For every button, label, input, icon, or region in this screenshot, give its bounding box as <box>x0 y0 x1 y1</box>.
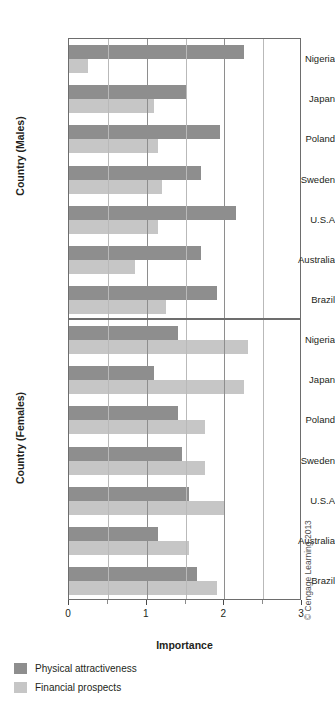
chart-panel-females <box>68 319 301 600</box>
gridline <box>224 39 225 318</box>
y-axis-category-label: Sweden <box>273 174 335 185</box>
gridline <box>108 320 109 599</box>
x-axis-title: Importance <box>68 639 301 651</box>
bar-physical-attractiveness <box>69 447 182 461</box>
bar-physical-attractiveness <box>69 85 186 99</box>
bar-physical-attractiveness <box>69 206 236 220</box>
bar-physical-attractiveness <box>69 286 217 300</box>
bars-area-females <box>69 320 300 599</box>
legend-item-physical-attractiveness: Physical attractiveness <box>14 663 137 674</box>
bar-group <box>69 366 300 394</box>
bar-physical-attractiveness <box>69 125 220 139</box>
bar-financial-prospects <box>69 220 158 234</box>
chart-panel-males <box>68 38 301 319</box>
bar-group <box>69 45 300 73</box>
x-axis-minor-tick <box>262 600 263 604</box>
y-axis-title-females: Country (Females) <box>14 378 26 498</box>
bar-financial-prospects <box>69 99 154 113</box>
y-axis-category-label: Sweden <box>273 455 335 466</box>
legend-label-prospects: Financial prospects <box>35 682 121 693</box>
gridline <box>263 320 264 599</box>
x-axis-tick <box>146 600 147 605</box>
bars-area-males <box>69 39 300 318</box>
bar-physical-attractiveness <box>69 527 158 541</box>
bar-physical-attractiveness <box>69 45 244 59</box>
gridline <box>224 320 225 599</box>
bar-financial-prospects <box>69 380 244 394</box>
x-axis-tick-label: 1 <box>143 608 149 619</box>
bar-physical-attractiveness <box>69 246 201 260</box>
y-axis-category-label: Australia <box>273 254 335 265</box>
y-axis-category-label: Brazil <box>273 294 335 305</box>
bar-group <box>69 447 300 475</box>
y-axis-category-label: Nigeria <box>273 334 335 345</box>
bar-financial-prospects <box>69 260 135 274</box>
gridline <box>147 320 148 599</box>
bar-group <box>69 85 300 113</box>
copyright-credit: © Cengage Learning 2013 <box>303 490 313 620</box>
bar-physical-attractiveness <box>69 166 201 180</box>
bar-financial-prospects <box>69 59 88 73</box>
x-axis-minor-tick <box>107 600 108 604</box>
bar-group <box>69 567 300 595</box>
bar-physical-attractiveness <box>69 366 154 380</box>
bar-group <box>69 326 300 354</box>
y-axis-category-label: Japan <box>273 93 335 104</box>
x-axis-tick-label: 2 <box>221 608 227 619</box>
legend-swatch-icon-attractiveness <box>14 663 27 674</box>
bar-physical-attractiveness <box>69 406 178 420</box>
gridline <box>147 39 148 318</box>
gridline <box>186 39 187 318</box>
y-axis-category-label: Poland <box>273 133 335 144</box>
bar-financial-prospects <box>69 340 248 354</box>
bar-group <box>69 246 300 274</box>
bar-financial-prospects <box>69 541 189 555</box>
bar-physical-attractiveness <box>69 487 189 501</box>
bar-financial-prospects <box>69 139 158 153</box>
y-axis-category-label: Nigeria <box>273 53 335 64</box>
y-axis-title-males: Country (Males) <box>14 96 26 216</box>
bar-financial-prospects <box>69 180 162 194</box>
bar-financial-prospects <box>69 300 166 314</box>
x-axis-tick <box>223 600 224 605</box>
bar-group <box>69 406 300 434</box>
bar-group <box>69 206 300 234</box>
bar-physical-attractiveness <box>69 326 178 340</box>
bar-group <box>69 487 300 515</box>
chart-legend: Physical attractiveness Financial prospe… <box>14 663 137 701</box>
bar-group <box>69 166 300 194</box>
bar-group <box>69 286 300 314</box>
bar-group <box>69 125 300 153</box>
bar-physical-attractiveness <box>69 567 197 581</box>
legend-item-financial-prospects: Financial prospects <box>14 682 137 693</box>
y-axis-category-label: Poland <box>273 414 335 425</box>
bar-group <box>69 527 300 555</box>
x-axis-minor-tick <box>185 600 186 604</box>
x-axis-tick <box>301 600 302 605</box>
gridline <box>108 39 109 318</box>
x-axis-tick <box>68 600 69 605</box>
gridline <box>186 320 187 599</box>
chart-figure: Country (Males) Country (Females) Nigeri… <box>0 0 335 727</box>
x-axis-tick-label: 0 <box>65 608 71 619</box>
gridline <box>263 39 264 318</box>
legend-swatch-icon-prospects <box>14 682 27 693</box>
legend-label-attractiveness: Physical attractiveness <box>35 663 137 674</box>
y-axis-category-label: Japan <box>273 374 335 385</box>
y-axis-category-label: U.S.A <box>273 214 335 225</box>
bar-financial-prospects <box>69 581 217 595</box>
